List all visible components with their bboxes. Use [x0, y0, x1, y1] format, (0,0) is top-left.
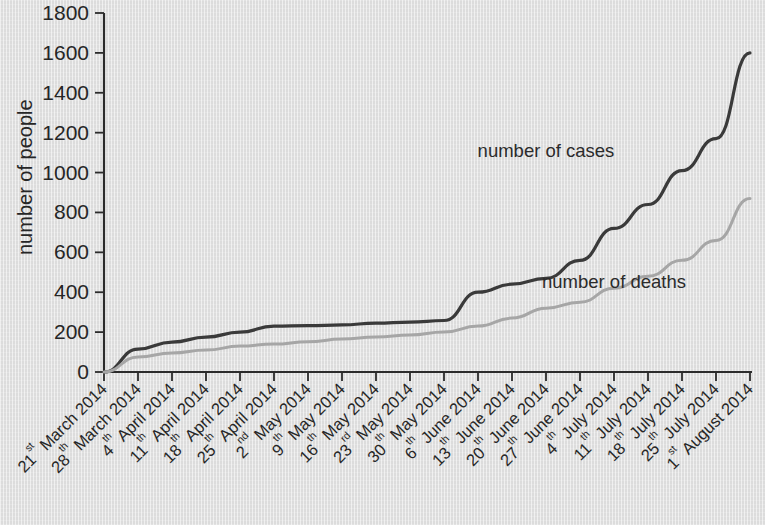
y-axis-tick-label: 0 — [77, 360, 89, 383]
chart-svg-canvas: 020040060080010001200140016001800 21st M… — [0, 0, 765, 525]
y-axis-tick-label: 1400 — [42, 81, 89, 104]
y-axis-tick-label: 600 — [54, 240, 89, 263]
series-lines — [104, 53, 750, 372]
series-annotation-label: number of cases — [478, 140, 615, 161]
y-axis-tick-label: 1600 — [42, 41, 89, 64]
y-axis-tick-label: 200 — [54, 320, 89, 343]
series-annotations: number of casesnumber of deaths — [478, 140, 686, 293]
x-axis-title-clipped — [0, 508, 765, 525]
y-axis-title: number of people — [14, 99, 36, 255]
x-axis: 21st March 201428th March 20144th April … — [9, 372, 756, 476]
y-axis-tick-label: 800 — [54, 200, 89, 223]
line-chart: 020040060080010001200140016001800 21st M… — [0, 0, 765, 525]
series-line-number-of-cases — [104, 53, 750, 372]
y-axis: 020040060080010001200140016001800 — [42, 1, 104, 383]
y-axis-tick-label: 400 — [54, 280, 89, 303]
y-axis-tick-label: 1000 — [42, 161, 89, 184]
y-axis-tick-label: 1200 — [42, 121, 89, 144]
series-annotation-label: number of deaths — [542, 271, 686, 292]
y-axis-tick-label: 1800 — [42, 1, 89, 24]
